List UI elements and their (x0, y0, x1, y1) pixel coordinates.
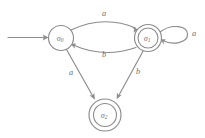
edge-label-sigma1-self: a (192, 29, 196, 38)
edge-label-sigma1-sigma0: b (102, 50, 106, 59)
automaton-svg: a b a b a σ0 (0, 0, 205, 138)
state-diagram-canvas: a b a b a σ0 (0, 0, 205, 138)
transition-sigma1-self-a[interactable] (160, 27, 188, 45)
edge-label-sigma1-sigma2: b (136, 67, 140, 76)
state-sigma-0[interactable]: σ0 (49, 26, 74, 51)
edge-label-sigma0-sigma2: a (69, 68, 73, 77)
state-sigma-1-subscript: 1 (148, 37, 151, 43)
start-arrow (8, 35, 49, 41)
transition-sigma0-sigma1-a[interactable] (71, 22, 139, 33)
state-sigma-2-subscript: 2 (105, 114, 108, 120)
state-sigma-2[interactable]: σ2 (89, 99, 121, 131)
state-sigma-0-subscript: 0 (61, 37, 64, 43)
state-sigma-1[interactable]: σ1 (135, 25, 162, 52)
edge-label-sigma0-sigma1: a (102, 9, 106, 18)
